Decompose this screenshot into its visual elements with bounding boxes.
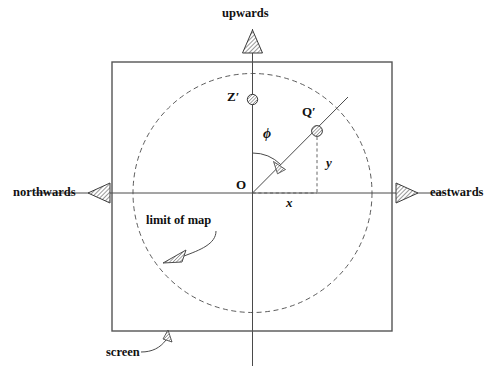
screen-arrowhead-icon <box>163 330 172 342</box>
z-prime-label: Z′ <box>227 90 239 103</box>
screen-label: screen <box>106 346 140 359</box>
radial-line-to-q-prime <box>253 97 349 193</box>
origin-label: O <box>236 178 246 191</box>
y-component-label: y <box>326 156 332 169</box>
limit-of-map-leader-line <box>184 231 216 256</box>
screen-leader-line <box>141 340 166 352</box>
phi-angle-arc <box>253 153 281 165</box>
q-prime-marker-icon <box>312 126 323 137</box>
northwards-label: northwards <box>13 186 76 199</box>
limit-of-map-arrowhead-icon <box>163 250 186 263</box>
limit-of-map-label: limit of map <box>146 214 211 227</box>
z-prime-marker-icon <box>247 94 257 104</box>
q-prime-label: Q′ <box>302 105 316 118</box>
upwards-arrowhead-icon <box>243 30 263 53</box>
northwards-arrowhead-icon <box>88 183 110 203</box>
upwards-label: upwards <box>222 7 269 20</box>
eastwards-arrowhead-icon <box>396 183 418 203</box>
eastwards-label: eastwards <box>430 186 483 199</box>
phi-angle-label: ϕ <box>263 127 271 141</box>
x-component-label: x <box>286 196 293 209</box>
